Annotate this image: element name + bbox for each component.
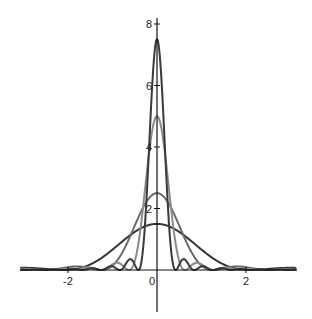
x-tick-label: 0 [149, 275, 155, 287]
curve-a-1-5 [20, 224, 296, 270]
y-tick-label: 4 [146, 141, 152, 153]
chart: -2022468 [0, 0, 312, 319]
x-tick-label: 2 [243, 275, 249, 287]
curve-a-2-5 [20, 193, 296, 270]
y-tick-label: 2 [146, 203, 152, 215]
y-tick-label: 6 [146, 80, 152, 92]
y-tick-label: 8 [146, 18, 152, 30]
curve-a-7-5 [20, 39, 296, 270]
x-tick-label: -2 [63, 275, 73, 287]
curves [20, 39, 296, 270]
ticks: -2022468 [63, 18, 249, 287]
